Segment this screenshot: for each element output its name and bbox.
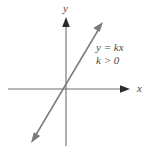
x-axis-arrowhead-icon: [120, 85, 130, 93]
line-arrowhead-lower-left-icon: [31, 132, 40, 143]
condition-text: k > 0: [96, 54, 125, 67]
y-axis-arrowhead-icon: [62, 17, 70, 27]
x-axis-label: x: [137, 83, 142, 94]
equation-annotation: y = kx k > 0: [96, 41, 125, 66]
line-y-equals-kx: [34, 27, 100, 138]
y-axis-label: y: [63, 3, 68, 14]
coordinate-plane-svg: [0, 0, 153, 153]
line-arrowhead-upper-right-icon: [93, 22, 103, 32]
equation-text: y = kx: [96, 41, 125, 54]
graph-figure: y x y = kx k > 0: [0, 0, 153, 153]
